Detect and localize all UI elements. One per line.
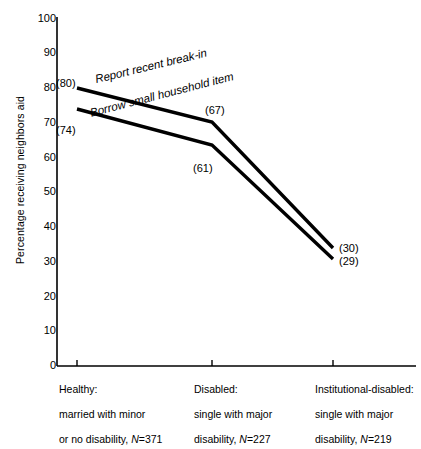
- x-category-institutional-line1: Institutional-disabled:: [315, 383, 414, 396]
- x-category-label-healthy: Healthy: married with minor or no disabi…: [59, 370, 162, 449]
- series-line-borrow-small-household-item: [77, 109, 333, 259]
- x-category-institutional-n-symbol: N: [360, 433, 368, 445]
- x-category-healthy-line2: married with minor: [59, 408, 162, 421]
- x-category-institutional-line2: single with major: [315, 408, 414, 421]
- x-category-disabled-line3: disability, N=227: [194, 433, 272, 446]
- x-category-disabled-n-symbol: N: [239, 433, 247, 445]
- x-category-institutional-line3: disability, N=219: [315, 433, 414, 446]
- x-category-healthy-n-value: =371: [139, 433, 163, 445]
- x-category-disabled-line1: Disabled:: [194, 383, 272, 396]
- x-category-disabled-line2: single with major: [194, 408, 272, 421]
- x-category-label-institutional: Institutional-disabled: single with majo…: [315, 370, 414, 449]
- x-category-institutional-line3-text: disability,: [315, 433, 360, 445]
- x-category-disabled-n-value: =227: [247, 433, 271, 445]
- point-label-s2-institutional: (29): [339, 256, 359, 267]
- point-label-s2-disabled: (61): [193, 163, 213, 174]
- x-category-institutional-n-value: =219: [368, 433, 392, 445]
- x-category-healthy-line1: Healthy:: [59, 383, 162, 396]
- x-category-label-disabled: Disabled: single with major disability, …: [194, 370, 272, 449]
- point-label-s1-healthy: (80): [56, 78, 76, 89]
- point-label-s1-disabled: (67): [205, 105, 225, 116]
- x-category-healthy-n-symbol: N: [131, 433, 139, 445]
- x-category-disabled-line3-text: disability,: [194, 433, 239, 445]
- x-category-healthy-line3-text: or no disability,: [59, 433, 131, 445]
- x-category-healthy-line3: or no disability, N=371: [59, 433, 162, 446]
- point-label-s2-healthy: (74): [56, 125, 76, 136]
- point-label-s1-institutional: (30): [339, 243, 359, 254]
